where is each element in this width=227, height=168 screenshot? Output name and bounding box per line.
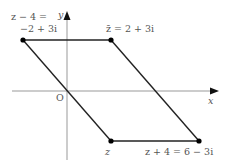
vertex-z-minus-4 (20, 37, 25, 42)
vertex-z (108, 138, 113, 143)
label-z-bar: z̄ = 2 + 3i (106, 23, 154, 34)
label-z-minus-4-line2: −2 + 3i (20, 23, 57, 34)
y-axis-label: y (57, 9, 64, 20)
x-axis-label: x (208, 95, 214, 106)
label-z-minus-4-line1: z − 4 = (11, 11, 47, 22)
complex-plane-diagram: y x O z − 4 = −2 + 3i z̄ = 2 + 3i z z + … (0, 0, 227, 168)
label-z-plus-4: z + 4 = 6 − 3i (145, 146, 213, 157)
x-axis-arrow-icon (210, 88, 219, 95)
label-z: z (104, 146, 111, 157)
y-axis-arrow-icon (64, 11, 71, 20)
vertex-z-bar (108, 37, 113, 42)
vertex-z-plus-4 (196, 138, 201, 143)
origin-label: O (56, 92, 64, 103)
